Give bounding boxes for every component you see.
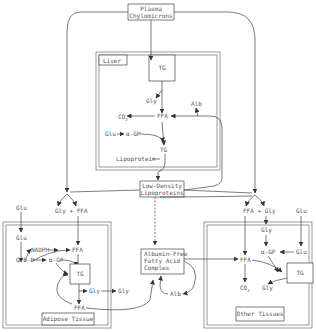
adipose-ffa-top: FFA [72,246,83,253]
liver-lipoprotein: Lipoprotein [116,155,156,163]
other-label: Other Tissues [237,310,284,317]
adipose-nadph: NADPH [31,246,49,253]
chylo-to-left-arrow [67,12,128,192]
other-ffa: FFA [240,256,251,263]
liver-alb: Alb [191,100,202,107]
liver-tg-bottom: TG [160,146,168,153]
adipose-tissue-region: Glu Glu NADPH FFA G-6-P α-GP TG Gly Gly … [3,204,153,328]
center-right-ffa-gly: FFA + Gly [243,207,276,215]
chylo-to-right-arrow [174,12,255,193]
albumin-line3: Complex [144,264,170,272]
other-glu-in: Glu [296,248,307,255]
other-glu-out: Glu [296,207,307,214]
liver-region: Liver TG Gly CO2 FFA Alb Glu α-GP TG Lip… [96,20,222,196]
adipose-g6p: G-6-P [16,256,34,263]
adipose-agp: α-GP [49,256,64,263]
adipose-glu-in: Glu [16,234,27,241]
adipose-glu-out: Glu [16,204,27,211]
center-left-gly-ffa: Gly + FFA [55,207,88,215]
adipose-gly-inner: Gly [89,287,100,295]
adipose-label: Adipose Tissue [43,315,94,323]
chylomicrons-label: Chylomicrons [129,12,173,20]
albumin-fatty-acid-complex-box: Albumin-Free Fatty Acid Complex [141,249,188,274]
other-gly-top: Gly [261,226,272,234]
liver-tg-top: TG [158,64,166,71]
other-co2: CO2 [240,284,250,293]
other-tissues-region: Glu Glu Gly α-GP FFA TG CO2 Gly Other Ti… [204,207,313,328]
ldl-line2: Lipoproteins [140,189,184,197]
albumin-line1: Albumin-Free [144,250,188,257]
liver-glu: Glu [105,130,116,137]
lipid-metabolism-diagram: Plasma Chylomicrons Liver TG Gly CO2 FFA… [0,0,316,332]
other-agp: α-GP [261,248,276,255]
ldl-box: Low-Density Lipoproteins [140,181,184,197]
adipose-gly-outer: Gly [118,287,129,295]
other-tg: TG [296,269,304,276]
plasma-chylomicrons-box: Plasma Chylomicrons [128,4,174,20]
liver-gly: Gly [146,97,157,105]
liver-label: Liver [103,57,121,64]
liver-ffa: FFA [157,112,168,119]
plasma-label: Plasma [140,5,162,12]
adipose-ffa-bottom: FFA [74,304,85,311]
adipose-tg: TG [76,270,84,277]
center-alb: Alb [170,290,181,297]
liver-co2: CO2 [118,113,128,122]
other-gly-bottom: Gly [262,284,273,292]
liver-agp: α-GP [126,130,141,137]
